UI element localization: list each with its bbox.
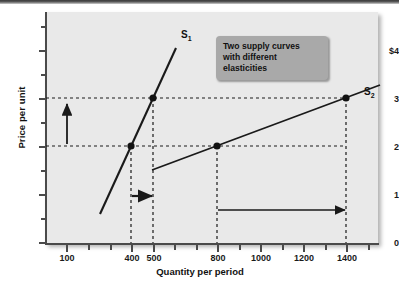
annotation-line-1: Two supply curves [223,41,321,52]
data-point-s2-800-2 [213,142,220,149]
data-point-s1-400-2 [127,142,134,149]
curve-label-s2-sub: 2 [371,92,375,99]
curve-label-s1-text: S [181,29,188,40]
annotation-textbox: Two supply curves with different elastic… [216,36,328,80]
supply-curve-s1 [100,48,176,214]
curve-label-s2-text: S [364,86,371,97]
annotation-line-2: with different [223,52,321,63]
annotation-line-3: elasticities [223,63,321,74]
chart-overlay [0,4,399,293]
curve-label-s2: S2 [364,86,375,99]
data-point-s1-500-3 [149,94,156,101]
curve-label-s1-sub: 1 [188,35,192,42]
supply-curve-figure: 0 1 2 3 $4 100 400 500 800 1000 1200 140… [0,4,399,293]
data-point-s2-1400-3 [342,94,349,101]
curve-label-s1: S1 [181,29,192,42]
